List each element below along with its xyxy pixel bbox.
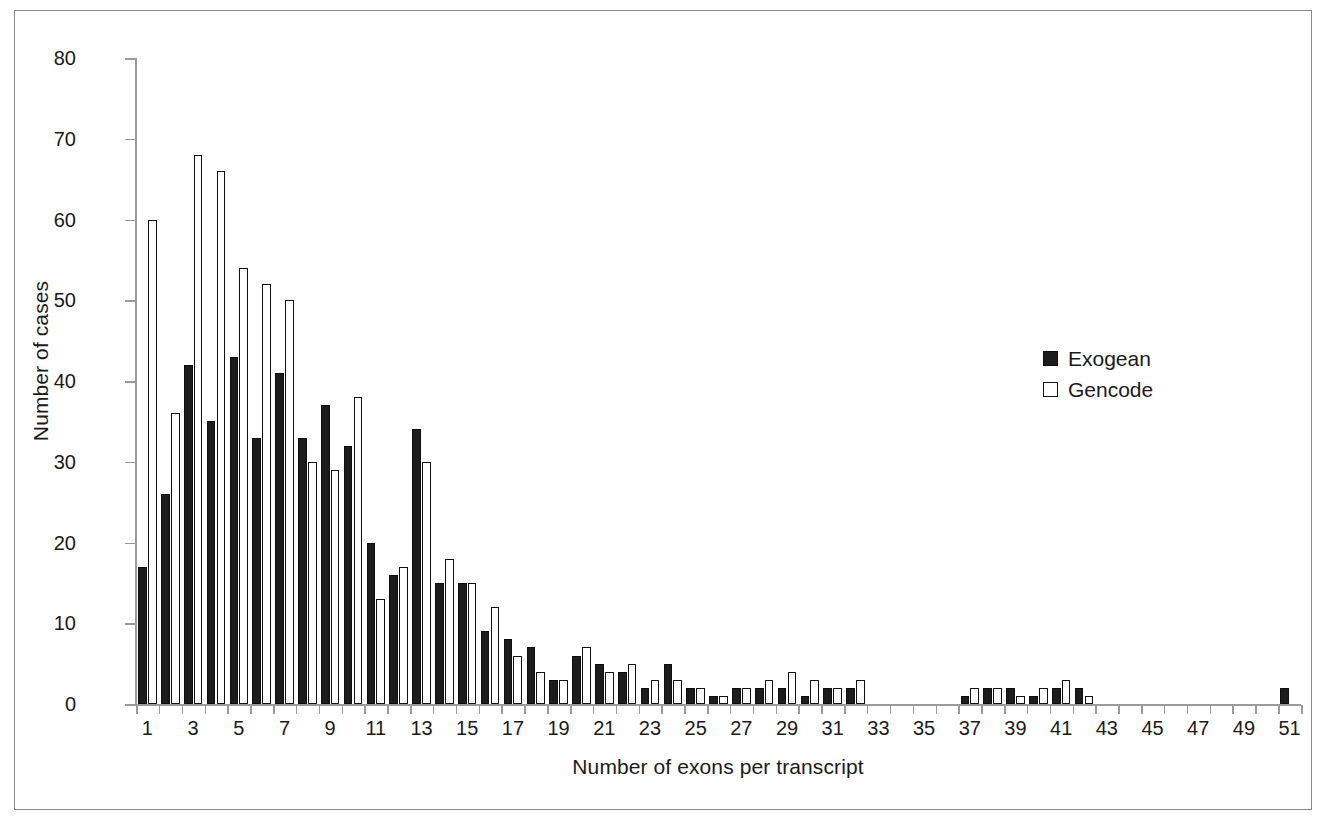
bar-exogean-25 (686, 688, 695, 704)
bar-gencode-37 (970, 688, 979, 704)
bar-exogean-17 (504, 639, 513, 704)
x-axis-tick-label: 25 (676, 717, 716, 740)
y-axis-tick-label: 0 (16, 693, 76, 716)
bar-gencode-5 (239, 268, 248, 704)
x-axis-tick (273, 705, 275, 714)
x-axis-tick (1232, 705, 1234, 714)
bar-gencode-20 (582, 647, 591, 704)
x-axis-tick (661, 705, 663, 714)
bar-gencode-25 (696, 688, 705, 704)
bar-gencode-17 (513, 656, 522, 704)
x-axis-tick (1095, 705, 1097, 714)
y-axis-tick-label: 80 (16, 47, 76, 70)
x-axis-tick-label: 11 (356, 717, 396, 740)
x-axis-tick-label: 33 (858, 717, 898, 740)
bar-gencode-30 (810, 680, 819, 704)
bar-exogean-12 (389, 575, 398, 704)
x-axis-tick-label: 45 (1133, 717, 1173, 740)
bar-exogean-38 (983, 688, 992, 704)
x-axis-tick (1255, 705, 1257, 714)
bar-exogean-24 (664, 664, 673, 704)
x-axis-tick-label: 47 (1178, 717, 1218, 740)
y-axis-tick (125, 58, 135, 60)
x-axis-tick (639, 705, 641, 714)
x-axis-tick (753, 705, 755, 714)
x-axis-tick (524, 705, 526, 714)
bar-exogean-8 (298, 438, 307, 704)
x-axis-tick (730, 705, 732, 714)
bar-gencode-42 (1085, 696, 1094, 704)
y-axis-tick (125, 462, 135, 464)
x-axis-tick (1187, 705, 1189, 714)
bar-gencode-18 (536, 672, 545, 704)
bar-gencode-39 (1016, 696, 1025, 704)
bar-gencode-32 (856, 680, 865, 704)
x-axis-tick (159, 705, 161, 714)
y-axis-tick-label: 70 (16, 128, 76, 151)
x-axis-tick (1118, 705, 1120, 714)
bar-exogean-10 (344, 446, 353, 704)
x-axis-tick-label: 1 (127, 717, 167, 740)
y-axis-tick-label: 50 (16, 289, 76, 312)
bar-exogean-4 (207, 421, 216, 704)
bar-gencode-6 (262, 284, 271, 704)
y-axis-tick (125, 139, 135, 141)
x-axis-line (135, 704, 1301, 706)
x-axis-tick (867, 705, 869, 714)
bars-layer (15, 11, 1311, 809)
x-axis-tick (364, 705, 366, 714)
x-axis-tick-label: 13 (402, 717, 442, 740)
bar-gencode-22 (628, 664, 637, 704)
x-axis-tick-label: 35 (904, 717, 944, 740)
x-axis-tick (433, 705, 435, 714)
legend-item-label: Gencode (1068, 378, 1153, 402)
bar-gencode-9 (331, 470, 340, 704)
x-axis-tick-label: 9 (310, 717, 350, 740)
bar-gencode-4 (217, 171, 226, 704)
bar-exogean-18 (527, 647, 536, 704)
legend-item-gencode: Gencode (1043, 374, 1153, 405)
x-axis-tick (1027, 705, 1029, 714)
x-axis-tick (616, 705, 618, 714)
bar-gencode-41 (1062, 680, 1071, 704)
bar-exogean-6 (252, 438, 261, 704)
bar-gencode-26 (719, 696, 728, 704)
x-axis-tick-label: 19 (539, 717, 579, 740)
x-axis-tick (1050, 705, 1052, 714)
y-axis-tick (125, 381, 135, 383)
bar-gencode-29 (788, 672, 797, 704)
bar-gencode-19 (559, 680, 568, 704)
bar-gencode-7 (285, 300, 294, 704)
x-axis-tick-label: 5 (219, 717, 259, 740)
x-axis-tick (913, 705, 915, 714)
bar-gencode-21 (605, 672, 614, 704)
bar-exogean-27 (732, 688, 741, 704)
bar-exogean-21 (595, 664, 604, 704)
x-axis-tick (227, 705, 229, 714)
bar-exogean-42 (1075, 688, 1084, 704)
x-axis-tick (547, 705, 549, 714)
x-axis-tick (593, 705, 595, 714)
x-axis-tick-label: 29 (767, 717, 807, 740)
bar-gencode-13 (422, 462, 431, 704)
bar-chart: Number of cases 01020304050607080 135791… (15, 11, 1311, 809)
chart-legend: ExogeanGencode (1043, 343, 1153, 405)
bar-gencode-24 (673, 680, 682, 704)
bar-gencode-28 (765, 680, 774, 704)
y-axis-tick-label: 20 (16, 532, 76, 555)
bar-gencode-14 (445, 559, 454, 704)
bar-exogean-3 (184, 365, 193, 704)
x-axis-tick (182, 705, 184, 714)
bar-exogean-20 (572, 656, 581, 704)
x-axis-tick-label: 23 (630, 717, 670, 740)
bar-gencode-38 (993, 688, 1002, 704)
bar-exogean-5 (230, 357, 239, 704)
bar-gencode-2 (171, 413, 180, 704)
y-axis-tick-label: 60 (16, 209, 76, 232)
x-axis-tick (707, 705, 709, 714)
y-axis-tick (125, 623, 135, 625)
x-axis-tick (776, 705, 778, 714)
bar-gencode-23 (651, 680, 660, 704)
outlined-square-icon (1043, 382, 1058, 397)
y-axis-tick-label: 40 (16, 370, 76, 393)
